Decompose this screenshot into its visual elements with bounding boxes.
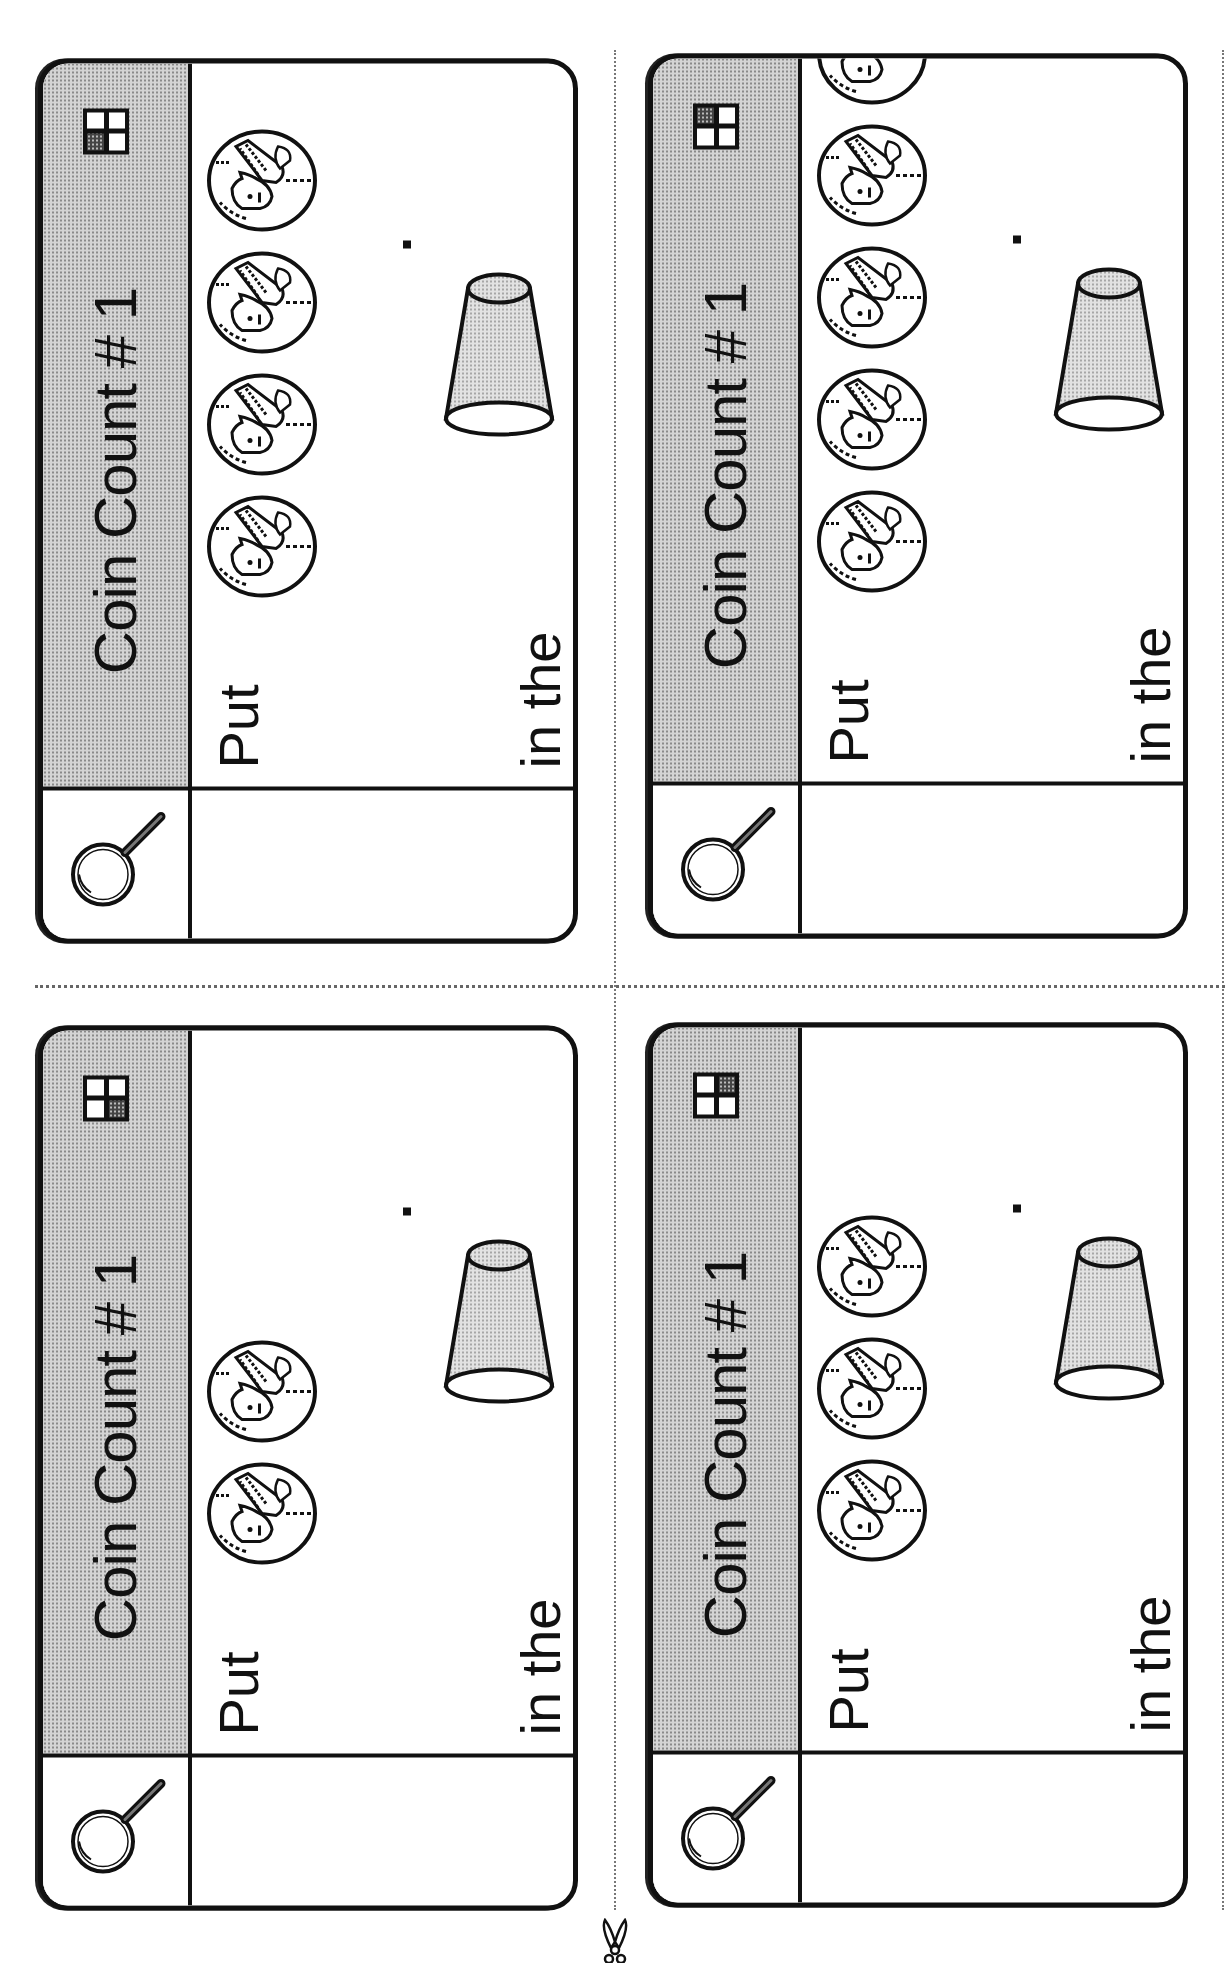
cup-icon bbox=[1048, 1232, 1168, 1402]
cup-icon bbox=[438, 268, 558, 438]
quadrant-cell bbox=[109, 134, 126, 151]
card-title: Coin Count # 1 bbox=[43, 1160, 188, 1735]
quadrant-cell bbox=[697, 1076, 714, 1093]
penny-icon bbox=[206, 128, 318, 232]
card-header: Coin Count # 1 bbox=[43, 63, 192, 938]
quadrant-cell bbox=[87, 134, 104, 151]
card-body: Put in the bbox=[188, 63, 573, 938]
quadrant-cell bbox=[697, 129, 714, 146]
quadrant-indicator-icon bbox=[83, 1075, 129, 1121]
period bbox=[403, 1207, 411, 1215]
cup-icon bbox=[1048, 263, 1168, 433]
penny-icon bbox=[816, 1214, 928, 1318]
cut-line-vertical-center bbox=[614, 50, 616, 1910]
quadrant-cell bbox=[719, 1098, 736, 1115]
coin-row bbox=[206, 128, 318, 598]
card-slot: Coin Count # 1 Put in the bbox=[648, 1022, 1188, 1907]
prompt-start: Put bbox=[816, 1648, 881, 1732]
card-slot: Coin Count # 1 Put in the bbox=[38, 1025, 578, 1910]
prompt-end: in the bbox=[1118, 626, 1183, 763]
quadrant-cell bbox=[697, 1098, 714, 1115]
quadrant-cell bbox=[719, 129, 736, 146]
cut-line-vertical-right bbox=[1222, 50, 1224, 1910]
card-slot: Coin Count # 1 Put in the bbox=[648, 53, 1188, 938]
task-card: Coin Count # 1 Put in the bbox=[38, 1025, 578, 1910]
prompt-end: in the bbox=[508, 1598, 573, 1735]
divider bbox=[188, 1753, 573, 1757]
quadrant-indicator-icon bbox=[693, 1072, 739, 1118]
quadrant-cell bbox=[109, 1101, 126, 1118]
divider bbox=[188, 786, 573, 790]
quadrant-cell bbox=[719, 107, 736, 124]
coin-row bbox=[816, 53, 928, 593]
magnifying-glass-icon bbox=[61, 806, 171, 916]
prompt-end: in the bbox=[1118, 1595, 1183, 1732]
penny-icon bbox=[206, 250, 318, 354]
prompt-start: Put bbox=[816, 679, 881, 763]
penny-icon bbox=[206, 494, 318, 598]
card-header: Coin Count # 1 bbox=[653, 58, 802, 933]
penny-icon bbox=[816, 367, 928, 471]
coin-row bbox=[206, 1339, 318, 1565]
coin-row bbox=[816, 1214, 928, 1562]
quadrant-indicator-icon bbox=[83, 108, 129, 154]
period bbox=[403, 240, 411, 248]
icon-cell bbox=[653, 1750, 798, 1902]
prompt-end: in the bbox=[508, 631, 573, 768]
penny-icon bbox=[816, 1336, 928, 1440]
penny-icon bbox=[206, 1461, 318, 1565]
card-body: Put in the bbox=[798, 1027, 1183, 1902]
quadrant-cell bbox=[109, 112, 126, 129]
cut-line-horizontal bbox=[35, 985, 1225, 988]
penny-icon bbox=[816, 245, 928, 349]
period bbox=[1013, 1204, 1021, 1212]
task-card: Coin Count # 1 Put in the bbox=[38, 58, 578, 943]
magnifying-glass-icon bbox=[61, 1773, 171, 1883]
divider bbox=[798, 1750, 1183, 1754]
quadrant-cell bbox=[719, 1076, 736, 1093]
card-slot: Coin Count # 1 Put in the bbox=[38, 58, 578, 943]
icon-cell bbox=[43, 1753, 188, 1905]
magnifying-glass-icon bbox=[671, 801, 781, 911]
card-title: Coin Count # 1 bbox=[43, 193, 188, 768]
quadrant-indicator-icon bbox=[693, 103, 739, 149]
penny-icon bbox=[816, 1458, 928, 1562]
period bbox=[1013, 235, 1021, 243]
quadrant-cell bbox=[87, 1101, 104, 1118]
card-body: Put in the bbox=[188, 1030, 573, 1905]
penny-icon bbox=[816, 53, 928, 105]
penny-icon bbox=[816, 489, 928, 593]
cup-icon bbox=[438, 1235, 558, 1405]
card-body: Put in the bbox=[798, 58, 1183, 933]
card-title: Coin Count # 1 bbox=[653, 188, 798, 763]
divider bbox=[798, 781, 1183, 785]
quadrant-cell bbox=[87, 1079, 104, 1096]
penny-icon bbox=[206, 1339, 318, 1443]
card-header: Coin Count # 1 bbox=[43, 1030, 192, 1905]
magnifying-glass-icon bbox=[671, 1770, 781, 1880]
prompt-start: Put bbox=[206, 684, 271, 768]
quadrant-cell bbox=[87, 112, 104, 129]
quadrant-cell bbox=[697, 107, 714, 124]
card-title: Coin Count # 1 bbox=[653, 1157, 798, 1732]
quadrant-cell bbox=[109, 1079, 126, 1096]
penny-icon bbox=[816, 123, 928, 227]
penny-icon bbox=[206, 372, 318, 476]
task-card: Coin Count # 1 Put in the bbox=[648, 53, 1188, 938]
scissors-icon bbox=[597, 1918, 633, 1963]
prompt-start: Put bbox=[206, 1651, 271, 1735]
card-header: Coin Count # 1 bbox=[653, 1027, 802, 1902]
icon-cell bbox=[653, 781, 798, 933]
icon-cell bbox=[43, 786, 188, 938]
task-card: Coin Count # 1 Put in the bbox=[648, 1022, 1188, 1907]
